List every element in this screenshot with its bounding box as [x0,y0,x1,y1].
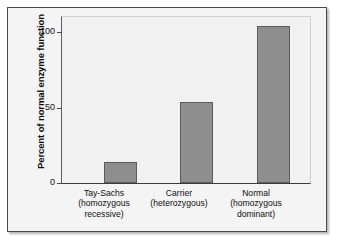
figure-panel: Percent of normal enzyme function 100 50… [7,7,327,232]
y-tick-label-0: 0 [50,177,55,187]
x-category-label-normal: Normal (homozygous dominant) [216,188,296,219]
x-category-label-carrier: Carrier (heterozygous) [139,188,219,209]
y-tick-label-100: 100 [40,26,55,36]
bar-tay-sachs [104,162,137,183]
y-tick-mark-0 [57,183,62,184]
y-tick-mark-50 [57,108,62,109]
bar-carrier [180,102,213,183]
y-tick-label-50: 50 [45,102,55,112]
bar-normal [257,26,290,183]
x-category-label-tay-sachs: Tay-Sachs (homozygous recessive) [64,188,144,219]
plot-area: 100 50 0 [61,16,311,184]
y-tick-mark-100 [57,32,62,33]
